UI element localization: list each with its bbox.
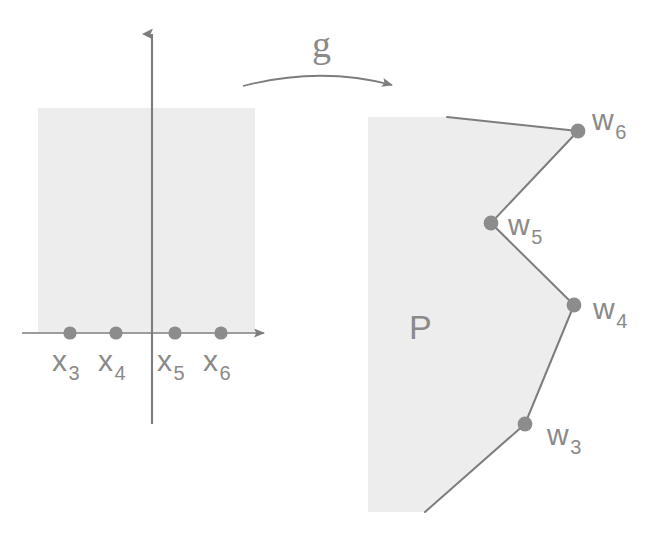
domain-label-x3-sub: 3: [69, 362, 80, 384]
vertex-label-w3: w3: [547, 418, 580, 452]
mapping-label-g: g: [312, 22, 331, 66]
vertex-label-w3-base: w: [547, 418, 569, 451]
domain-label-x3-base: x: [52, 344, 68, 377]
domain-label-x5: x5: [157, 344, 184, 378]
polygon-vertex-w3: [518, 417, 533, 432]
vertex-label-w6-sub: 6: [615, 121, 626, 143]
domain-label-x4-sub: 4: [115, 362, 126, 384]
vertex-label-w4-sub: 4: [616, 310, 627, 332]
vertex-label-w6-base: w: [592, 103, 614, 136]
polygon-region: [368, 117, 578, 512]
polygon-vertex-w4: [567, 298, 582, 313]
vertex-label-w4-base: w: [593, 292, 615, 325]
vertex-label-w4: w4: [593, 292, 626, 326]
domain-label-x4: x4: [98, 344, 125, 378]
domain-label-x6-sub: 6: [220, 362, 231, 384]
vertex-label-w5-base: w: [508, 208, 530, 241]
vertex-label-w5: w5: [508, 208, 541, 242]
vertex-label-w5-sub: 5: [531, 226, 542, 248]
domain-label-x3: x3: [52, 344, 79, 378]
domain-label-x5-sub: 5: [174, 362, 185, 384]
domain-label-x6: x6: [203, 344, 230, 378]
figure-canvas: [0, 0, 669, 538]
domain-point-x6: [214, 326, 227, 339]
domain-point-x5: [168, 326, 181, 339]
domain-point-x3: [63, 326, 76, 339]
polygon-vertex-w5: [484, 216, 499, 231]
mapping-arrow: [243, 76, 392, 86]
domain-label-x6-base: x: [203, 344, 219, 377]
domain-label-x5-base: x: [157, 344, 173, 377]
region-label-P: P: [409, 308, 432, 347]
mapping-figure: g x3 x4 x5 x6 P w6 w5 w4 w3: [0, 0, 669, 538]
domain-point-x4: [109, 326, 122, 339]
vertex-label-w6: w6: [592, 103, 625, 137]
domain-shaded-region: [38, 108, 255, 332]
polygon-vertex-w6: [571, 124, 586, 139]
domain-label-x4-base: x: [98, 344, 114, 377]
vertex-label-w3-sub: 3: [570, 436, 581, 458]
